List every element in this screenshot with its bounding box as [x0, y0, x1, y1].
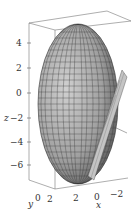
- z-tick-neg2: −2: [10, 114, 23, 123]
- x-tick-2: 2: [73, 194, 79, 203]
- z-tick-2: 2: [16, 64, 22, 73]
- surface-plot: [0, 0, 132, 211]
- x-tick-neg2: −2: [110, 190, 123, 199]
- z-tick-neg4: −4: [10, 138, 23, 147]
- y-tick-0: 0: [35, 194, 41, 203]
- z-tick-neg6: −6: [10, 161, 23, 170]
- z-tick-4: 4: [16, 39, 22, 48]
- z-axis-label: z: [4, 114, 9, 123]
- z-tick-0: 0: [16, 89, 22, 98]
- x-axis-label: x: [96, 201, 101, 210]
- ellipsoid-surface: [38, 24, 118, 184]
- y-axis-label: y: [28, 200, 33, 209]
- y-tick-2: 2: [47, 195, 53, 204]
